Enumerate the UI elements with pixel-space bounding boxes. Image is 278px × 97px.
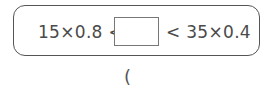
answer-box[interactable] [114, 17, 159, 46]
left-expression: 15×0.8 < [38, 17, 123, 47]
right-expression: < 35×0.4 [166, 17, 251, 47]
answer-parenthesis: ( [124, 66, 131, 87]
